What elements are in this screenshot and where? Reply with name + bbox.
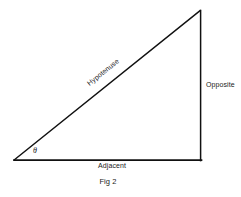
hypotenuse-side-line [14, 10, 200, 159]
opposite-label: Opposite [206, 80, 235, 89]
figure-container: Hypotenuse Opposite Adjacent θ Fig 2 [0, 0, 241, 197]
figure-caption: Fig 2 [99, 177, 116, 186]
theta-angle-symbol: θ [33, 146, 37, 155]
adjacent-label: Adjacent [98, 161, 126, 170]
